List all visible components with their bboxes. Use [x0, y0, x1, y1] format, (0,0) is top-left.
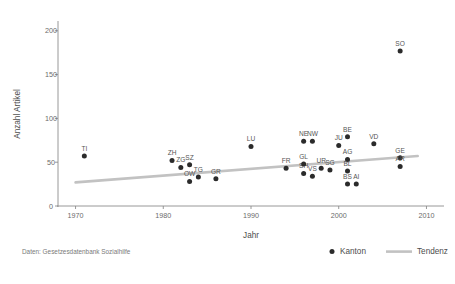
scatter-chart: 050100150200 19701980199020002010 TIZHZG…	[0, 0, 455, 284]
point-dot-vs[interactable]	[310, 174, 315, 179]
point-dot-ai[interactable]	[354, 182, 359, 187]
point-dot-fr[interactable]	[284, 166, 289, 171]
x-axis: 19701980199020002010	[57, 206, 444, 220]
point-label-ai: AI	[353, 173, 359, 180]
y-tick-label: 200	[45, 26, 57, 35]
point-dot-gl[interactable]	[301, 161, 306, 166]
point-label-zg: ZG	[176, 156, 185, 163]
point-label-be: BE	[343, 126, 352, 133]
point-dot-so[interactable]	[398, 48, 403, 53]
point-dot-lu[interactable]	[249, 144, 254, 149]
x-tick-label: 1980	[155, 211, 171, 220]
chart-legend: KantonTendenz	[330, 247, 448, 256]
point-dot-ar[interactable]	[398, 164, 403, 169]
y-tick-label: 50	[47, 158, 55, 167]
y-tick-label: 150	[45, 70, 57, 79]
point-label-ge: GE	[395, 147, 405, 154]
point-label-vd: VD	[369, 133, 378, 140]
point-dot-tg[interactable]	[196, 175, 201, 180]
point-label-tg: TG	[194, 166, 203, 173]
point-dot-nw[interactable]	[310, 139, 315, 144]
point-dot-sh[interactable]	[301, 171, 306, 176]
x-axis-title: Jahr	[243, 231, 259, 240]
legend-label-tendenz: Tendenz	[417, 247, 448, 256]
trend-line-segment	[76, 156, 418, 182]
point-dot-zg[interactable]	[178, 165, 183, 170]
point-label-gr: GR	[211, 168, 221, 175]
trend-line	[76, 156, 418, 182]
point-label-fr: FR	[282, 157, 291, 164]
point-label-sg: SG	[325, 159, 335, 166]
point-label-gl: GL	[299, 153, 308, 160]
data-points: TIZHZGSZOWTGGRLUFRSHNENWVSGLURSGJUBEAGBL…	[81, 40, 405, 187]
point-label-lu: LU	[247, 135, 256, 142]
point-dot-ne[interactable]	[301, 139, 306, 144]
point-label-ar: AR	[396, 155, 405, 162]
point-label-bs: BS	[343, 173, 352, 180]
y-tick-label: 0	[49, 202, 53, 211]
point-dot-sz[interactable]	[187, 162, 192, 167]
point-dot-ow[interactable]	[187, 179, 192, 184]
point-dot-be[interactable]	[345, 134, 350, 139]
x-tick-label: 1970	[68, 211, 84, 220]
x-tick-label: 1990	[243, 211, 259, 220]
y-axis: 050100150200	[45, 21, 58, 211]
legend-label-kanton: Kanton	[340, 247, 366, 256]
point-label-ti: TI	[81, 145, 87, 152]
x-tick-label: 2010	[418, 211, 434, 220]
point-label-so: SO	[395, 40, 405, 47]
chart-canvas: 050100150200 19701980199020002010 TIZHZG…	[0, 0, 455, 284]
point-dot-bs[interactable]	[345, 182, 350, 187]
point-dot-sg[interactable]	[327, 168, 332, 173]
point-label-ag: AG	[343, 148, 353, 155]
point-label-bl: BL	[343, 160, 351, 167]
point-label-zh: ZH	[168, 149, 177, 156]
point-dot-gr[interactable]	[213, 176, 218, 181]
y-tick-label: 100	[45, 114, 57, 123]
source-caption: Daten: Gesetzesdatenbank Sozialhilfe	[22, 248, 131, 255]
x-tick-label: 2000	[331, 211, 347, 220]
point-label-vs: VS	[308, 165, 317, 172]
y-axis-title: Anzahl Artikel	[13, 89, 22, 139]
point-dot-zh[interactable]	[170, 158, 175, 163]
point-label-ju: JU	[335, 134, 343, 141]
point-label-nw: NW	[307, 130, 319, 137]
point-dot-ti[interactable]	[82, 154, 87, 159]
point-dot-ju[interactable]	[336, 143, 341, 148]
legend-marker-kanton	[330, 249, 335, 254]
point-label-sz: SZ	[185, 154, 193, 161]
point-dot-vd[interactable]	[371, 141, 376, 146]
point-dot-ur[interactable]	[319, 166, 324, 171]
